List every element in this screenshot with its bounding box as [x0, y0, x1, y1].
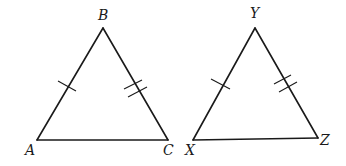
- vertex-label-x: X: [184, 142, 196, 158]
- side-xy: [193, 28, 255, 140]
- side-bc: [103, 28, 168, 140]
- vertex-label-y: Y: [250, 5, 261, 21]
- side-yz: [255, 28, 318, 138]
- vertex-label-c: C: [163, 142, 174, 158]
- triangle-diagram: A B C X Y Z: [0, 0, 346, 166]
- side-xz: [193, 138, 318, 140]
- side-ab: [37, 28, 103, 140]
- tick-mark-xy: [211, 79, 230, 89]
- triangle-abc: A B C: [23, 7, 174, 158]
- vertex-label-z: Z: [319, 132, 330, 148]
- triangle-xyz: X Y Z: [184, 5, 330, 158]
- vertex-label-a: A: [23, 142, 35, 158]
- double-tick-mark-yz: [274, 75, 297, 92]
- vertex-label-b: B: [97, 7, 108, 23]
